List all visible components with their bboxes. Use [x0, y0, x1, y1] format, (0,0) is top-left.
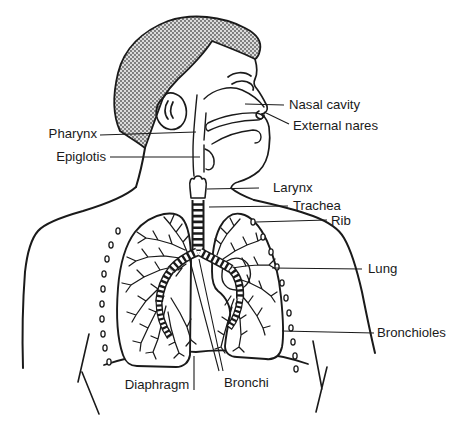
label-external-nares: External nares [293, 118, 378, 133]
eyebrow [228, 73, 251, 77]
epiglottis-flap [205, 149, 214, 170]
label-diaphragm: Diaphragm [125, 377, 190, 392]
label-bronchi: Bronchi [224, 375, 269, 390]
label-larynx: Larynx [273, 180, 313, 195]
pharynx-front-wall [204, 113, 206, 172]
label-nasal-cavity: Nasal cavity [289, 97, 360, 112]
ear-inner [165, 101, 173, 119]
mouth-nasal-section [193, 88, 264, 176]
trachea-leader [209, 206, 288, 207]
rib-leader [256, 220, 327, 222]
label-trachea: Trachea [293, 198, 342, 213]
respiratory-system-diagram: Pharynx Epiglotis Nasal cavity External … [0, 0, 454, 440]
right-armpit-lines [313, 341, 327, 412]
neck-back [136, 148, 145, 187]
label-rib: Rib [331, 213, 351, 228]
label-lung: Lung [368, 261, 397, 276]
pharynx-back-wall [193, 95, 197, 176]
label-epiglotis: Epiglotis [56, 149, 106, 164]
left-armpit-lines [78, 334, 99, 414]
label-pharynx: Pharynx [49, 126, 98, 141]
right-lung-outline [212, 214, 283, 360]
lung-leader [272, 268, 362, 269]
hair [114, 17, 260, 148]
palate [206, 113, 263, 131]
tongue [212, 130, 261, 144]
nasal-cavity-leader [245, 104, 284, 105]
label-bronchioles: Bronchioles [377, 325, 446, 340]
diagram-canvas: Pharynx Epiglotis Nasal cavity External … [0, 0, 454, 440]
bronchioles-leader [282, 331, 374, 333]
larynx-shape [190, 176, 207, 198]
larynx-leader [207, 188, 259, 189]
